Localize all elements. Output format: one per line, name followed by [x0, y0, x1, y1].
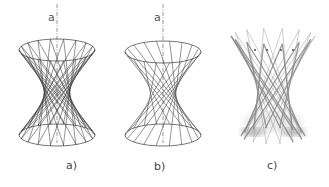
caption-b: b) — [154, 161, 165, 172]
hyperboloid-c-stick-model — [231, 28, 315, 144]
hyperboloid-b-wireframe — [125, 4, 201, 146]
hyperboloid-a-wireframe — [19, 4, 95, 146]
caption-c: c) — [267, 160, 277, 171]
caption-a: a) — [66, 160, 77, 171]
axis-label-b: a — [154, 12, 161, 23]
axis-label-a: a — [48, 12, 55, 23]
hyperboloid-figure — [0, 0, 329, 187]
